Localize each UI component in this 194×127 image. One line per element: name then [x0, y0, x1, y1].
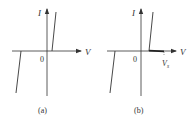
origin-label-b: 0: [133, 55, 137, 64]
reverse-branch-b: [110, 51, 115, 93]
caption-b: (b): [134, 106, 144, 115]
saturation-segment-b: [149, 51, 164, 52]
forward-branch-b: [149, 12, 153, 51]
vs-label-subscript: s: [167, 63, 169, 69]
panel-a: I V 0 (a): [12, 8, 92, 115]
vs-label-b: Vs: [162, 59, 169, 69]
caption-a: (a): [38, 106, 47, 115]
y-axis-label-a: I: [37, 8, 42, 18]
x-axis-label-a: V: [85, 47, 92, 57]
origin-label-a: 0: [40, 55, 44, 64]
diode-iv-diagrams: I V 0 (a) I V 0 Vs (b): [0, 0, 194, 127]
y-axis-label-b: I: [131, 8, 136, 18]
x-axis-label-b: V: [180, 47, 187, 57]
reverse-branch-a: [16, 51, 21, 93]
panel-b: I V 0 Vs (b): [107, 8, 187, 115]
forward-branch-a: [52, 12, 56, 51]
